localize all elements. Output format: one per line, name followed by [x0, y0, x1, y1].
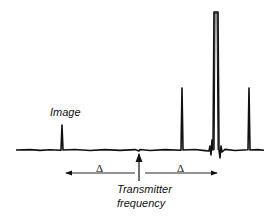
transmitter-label-line2: frequency: [117, 197, 165, 209]
image-label: Image: [50, 106, 81, 118]
delta-right-label: Δ: [177, 162, 184, 174]
transmitter-label-line1: Transmitter: [117, 183, 172, 195]
delta-left-label: Δ: [96, 162, 103, 174]
spectrum-trace: [16, 12, 264, 158]
